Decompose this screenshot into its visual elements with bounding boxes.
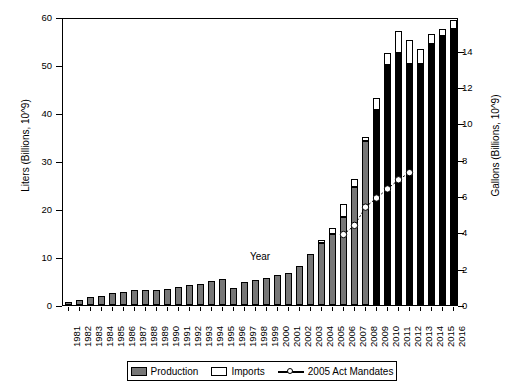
x-tick-label: 1984	[105, 326, 115, 347]
x-tick-mark	[266, 307, 267, 311]
legend-item-production: Production	[131, 366, 199, 377]
imports-swatch-icon	[211, 367, 227, 376]
right-tick-mark	[458, 124, 464, 125]
x-tick-mark	[112, 307, 113, 311]
x-tick-mark	[255, 307, 256, 311]
left-tick-label: 30	[12, 157, 52, 167]
x-tick-mark	[244, 307, 245, 311]
x-tick-label: 2014	[435, 326, 445, 347]
x-tick-label: 2000	[281, 326, 291, 347]
right-tick-mark	[458, 270, 464, 271]
plot-area	[62, 18, 458, 306]
x-tick-label: 2003	[314, 326, 324, 347]
left-tick-label: 50	[12, 61, 52, 71]
x-tick-mark	[134, 307, 135, 311]
left-tick-mark	[56, 162, 62, 163]
x-tick-label: 1982	[83, 326, 93, 347]
left-tick-label: 10	[12, 253, 52, 263]
x-tick-label: 1987	[138, 326, 148, 347]
x-tick-label: 1990	[171, 326, 181, 347]
x-tick-mark	[365, 307, 366, 311]
x-tick-label: 1985	[116, 326, 126, 347]
x-tick-label: 1983	[94, 326, 104, 347]
x-tick-mark	[453, 307, 454, 311]
right-tick-label: 10	[462, 119, 502, 129]
x-tick-mark	[332, 307, 333, 311]
x-tick-mark	[277, 307, 278, 311]
legend-item-mandates: 2005 Act Mandates	[278, 366, 394, 377]
x-axis-title: Year	[62, 251, 458, 262]
x-tick-label: 2001	[292, 326, 302, 347]
legend-label-imports: Imports	[231, 366, 264, 377]
legend-label-production: Production	[151, 366, 199, 377]
x-tick-mark	[431, 307, 432, 311]
legend-label-mandates: 2005 Act Mandates	[308, 366, 394, 377]
right-tick-label: 2	[462, 265, 502, 275]
x-tick-mark	[354, 307, 355, 311]
right-tick-label: 12	[462, 83, 502, 93]
x-tick-label: 1999	[270, 326, 280, 347]
left-tick-label: 40	[12, 109, 52, 119]
x-tick-label: 2002	[303, 326, 313, 347]
left-tick-label: 0	[12, 301, 52, 311]
x-tick-label: 1991	[182, 326, 192, 347]
mandate-line-series	[63, 19, 459, 307]
x-tick-mark	[343, 307, 344, 311]
x-tick-label: 1995	[226, 326, 236, 347]
x-tick-label: 2010	[391, 326, 401, 347]
x-tick-mark	[222, 307, 223, 311]
x-tick-label: 2013	[424, 326, 434, 347]
right-tick-label: 14	[462, 47, 502, 57]
x-tick-label: 1988	[149, 326, 159, 347]
x-tick-mark	[310, 307, 311, 311]
x-tick-label: 1998	[259, 326, 269, 347]
x-tick-label: 2004	[325, 326, 335, 347]
x-tick-mark	[211, 307, 212, 311]
x-tick-mark	[123, 307, 124, 311]
right-tick-mark	[458, 197, 464, 198]
ethanol-production-chart: Liters (Billions, 10^9) Gallons (Billion…	[0, 0, 514, 392]
x-tick-label: 1993	[204, 326, 214, 347]
left-tick-mark	[56, 18, 62, 19]
x-tick-mark	[90, 307, 91, 311]
chart-legend: Production Imports 2005 Act Mandates	[127, 361, 397, 381]
x-tick-mark	[299, 307, 300, 311]
right-tick-label: 4	[462, 228, 502, 238]
x-tick-label: 2007	[358, 326, 368, 347]
left-tick-label: 60	[12, 13, 52, 23]
mandate-line-icon	[278, 367, 304, 376]
x-tick-label: 2016	[457, 326, 467, 347]
x-tick-mark	[420, 307, 421, 311]
production-swatch-icon	[131, 367, 147, 376]
left-tick-mark	[56, 114, 62, 115]
right-tick-label: 6	[462, 192, 502, 202]
x-tick-mark	[145, 307, 146, 311]
x-tick-label: 2011	[402, 327, 412, 347]
left-tick-label: 20	[12, 205, 52, 215]
x-tick-mark	[409, 307, 410, 311]
x-tick-mark	[79, 307, 80, 311]
x-tick-label: 1994	[215, 326, 225, 347]
x-tick-mark	[200, 307, 201, 311]
x-tick-mark	[189, 307, 190, 311]
x-tick-label: 2006	[347, 326, 357, 347]
x-tick-mark	[288, 307, 289, 311]
legend-item-imports: Imports	[211, 366, 264, 377]
x-tick-mark	[156, 307, 157, 311]
x-tick-label: 1997	[248, 326, 258, 347]
x-tick-label: 1996	[237, 326, 247, 347]
right-tick-label: 0	[462, 301, 502, 311]
x-tick-mark	[398, 307, 399, 311]
right-tick-mark	[458, 88, 464, 89]
right-tick-mark	[458, 306, 464, 307]
x-tick-label: 1986	[127, 326, 137, 347]
x-tick-label: 2005	[336, 326, 346, 347]
x-tick-label: 2009	[380, 326, 390, 347]
x-tick-mark	[167, 307, 168, 311]
right-tick-label: 8	[462, 156, 502, 166]
x-tick-mark	[376, 307, 377, 311]
x-tick-label: 1989	[160, 326, 170, 347]
x-tick-mark	[68, 307, 69, 311]
left-tick-mark	[56, 306, 62, 307]
left-tick-mark	[56, 66, 62, 67]
